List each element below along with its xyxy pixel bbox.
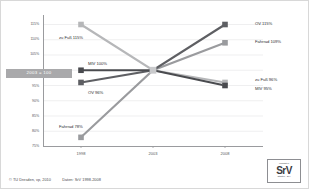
marker-convergence-2003 — [150, 67, 157, 74]
label-miv-end: MIV 95% — [255, 87, 272, 91]
y-axis-tick-75: 75% — [25, 145, 39, 149]
srv-logo: Mobilität in SrV Städten · SrV — [267, 159, 301, 183]
label-zu-fuss-end: zu Fuß 96% — [255, 78, 277, 82]
y-axis-tick-105: 105% — [25, 53, 39, 57]
label-ov-start: ÖV 96% — [88, 91, 103, 95]
label-ov-end: ÖV 115% — [255, 22, 272, 26]
footer-credits: © TU Dresden, vp, 2010 Daten: SrV 1998-2… — [9, 178, 101, 182]
label-miv-start: MIV 100% — [88, 62, 107, 66]
marker-miv-1998 — [78, 67, 84, 73]
x-axis-tick-1998: 1998 — [66, 152, 96, 156]
marker-ov-2008 — [222, 22, 228, 28]
y-axis-tick-110: 110% — [25, 38, 39, 42]
marker-zu-fuss-1998 — [78, 22, 84, 28]
x-axis-tick-2008: 2008 — [210, 152, 240, 156]
y-axis-tick-95: 95% — [25, 85, 39, 89]
marker-fahrrad-1998 — [78, 135, 84, 141]
series-line-ov — [81, 25, 225, 83]
footer-source: Daten: SrV 1998-2008 — [62, 177, 101, 182]
marker-miv-2008 — [222, 83, 228, 89]
footer-copyright: © TU Dresden, vp, 2010 — [9, 177, 51, 182]
y-axis-tick-80: 80% — [25, 130, 39, 134]
series-line-zu-fuss — [81, 25, 225, 83]
y-axis-tick-90: 90% — [25, 100, 39, 104]
marker-ov-1998 — [78, 80, 84, 86]
marker-fahrrad-2008 — [222, 40, 228, 46]
y-axis-tick-85: 85% — [25, 115, 39, 119]
label-fahrrad-end: Fahrrad 109% — [255, 40, 281, 44]
label-fahrrad-start: Fahrrad 78% — [59, 125, 83, 129]
label-zu-fuss-start: zu Fuß 115% — [59, 36, 83, 40]
baseline-badge: 2003 = 100 — [6, 69, 72, 78]
y-axis-tick-115: 115% — [25, 23, 39, 27]
gridlines — [43, 25, 263, 132]
srv-logo-bottom-text: Städten · SrV — [277, 176, 290, 178]
x-axis-tick-2003: 2003 — [138, 152, 168, 156]
chart-card: 115% 110% 105% 100% 95% 90% 85% 80% 75% — [0, 0, 309, 189]
